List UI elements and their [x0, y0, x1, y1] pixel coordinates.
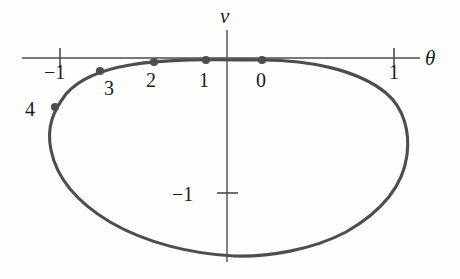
point-label-1: 1 — [199, 70, 209, 90]
marked-point-4 — [51, 103, 59, 111]
point-label-3: 3 — [104, 78, 114, 98]
point-label-0: 0 — [256, 70, 266, 90]
theta-axis-label: θ — [425, 48, 435, 69]
tick-label-v-minus1: −1 — [172, 184, 193, 204]
figure-container: θ v −1 1 −1 0 1 2 3 4 — [0, 0, 460, 279]
point-label-2: 2 — [146, 70, 156, 90]
marked-point-2 — [150, 58, 158, 66]
marked-point-1 — [202, 56, 210, 64]
tick-label-theta-plus1: 1 — [389, 62, 399, 82]
marked-point-0 — [258, 56, 266, 64]
tick-label-theta-minus1: −1 — [44, 62, 65, 82]
v-axis-label: v — [220, 6, 229, 27]
point-label-4: 4 — [25, 99, 35, 119]
plot-canvas — [0, 0, 460, 279]
marked-point-3 — [96, 67, 104, 75]
